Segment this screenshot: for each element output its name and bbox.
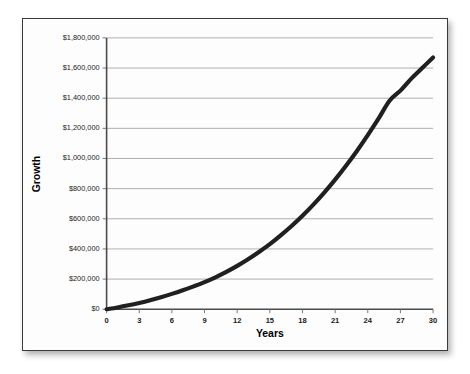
y-tick-label: $1,600,000 [63,63,100,72]
y-tick-label: $600,000 [69,214,100,223]
y-tick-label: $400,000 [69,244,100,253]
x-tick-label: 9 [202,316,206,325]
chart-figure-frame: $0$200,000$400,000$600,000$800,000$1,000… [22,18,448,351]
y-tick-label: $200,000 [69,274,100,283]
x-tick-label: 6 [170,316,174,325]
x-tick-label: 27 [396,316,404,325]
x-tick-label: 15 [266,316,274,325]
x-tick-label: 24 [364,316,373,325]
x-tick-label: 18 [298,316,306,325]
x-tick-label: 12 [233,316,241,325]
y-tick-label: $1,400,000 [63,93,100,102]
growth-line-chart: $0$200,000$400,000$600,000$800,000$1,000… [23,19,447,350]
x-tick-label: 30 [429,316,437,325]
y-tick-label: $0 [91,304,99,313]
x-tick-label: 21 [331,316,339,325]
y-tick-label: $800,000 [69,184,100,193]
x-tick-label: 3 [137,316,141,325]
x-tick-label: 0 [105,316,109,325]
y-axis-tick-labels: $0$200,000$400,000$600,000$800,000$1,000… [63,33,100,313]
y-tick-label: $1,000,000 [63,153,100,162]
x-axis-tick-labels: 036912151821242730 [105,316,438,325]
y-tick-label: $1,800,000 [63,33,100,42]
y-tick-label: $1,200,000 [63,123,100,132]
growth-data-curve [107,57,433,309]
x-axis-title: Years [256,328,284,339]
y-axis-title: Growth [31,156,42,193]
